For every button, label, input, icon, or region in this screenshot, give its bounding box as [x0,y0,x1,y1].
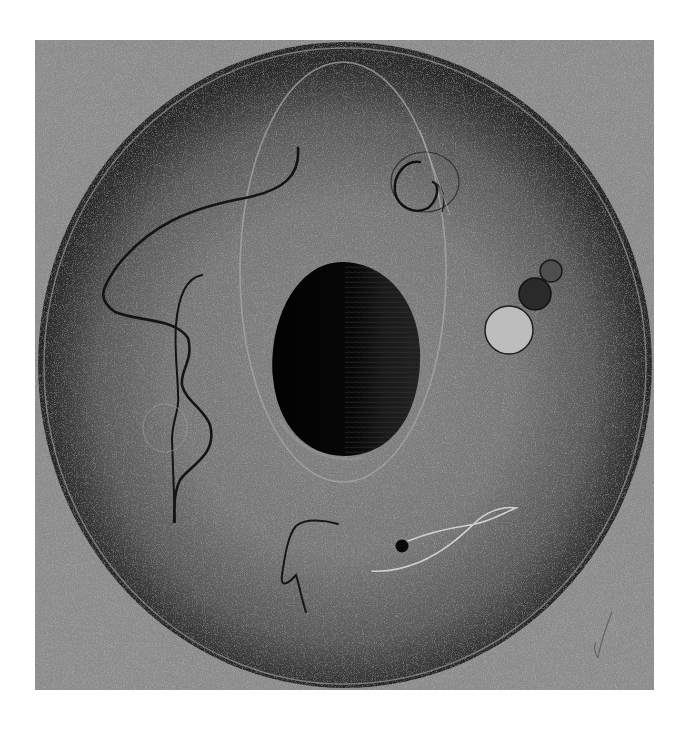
circle-small [540,260,562,282]
artwork-canvas [0,0,691,729]
circle-medium [519,278,551,310]
circle-large [485,306,533,354]
black-dot [396,540,409,553]
